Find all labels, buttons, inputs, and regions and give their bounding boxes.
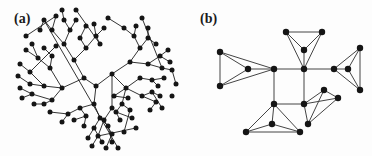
tree-edge <box>50 112 68 114</box>
tree-edge <box>126 78 140 88</box>
tree-node <box>28 70 33 75</box>
cluster-edge <box>304 32 322 50</box>
tree-edge <box>32 94 52 100</box>
tree-node <box>16 74 21 79</box>
tree-node <box>126 96 131 101</box>
tree-node <box>48 66 53 71</box>
cluster-node <box>321 87 327 93</box>
tree-node <box>60 8 65 13</box>
tree-edge <box>124 110 130 132</box>
tree-node <box>50 98 55 103</box>
tree-node <box>78 36 83 41</box>
tree-node <box>114 110 119 115</box>
tree-node <box>24 34 29 39</box>
tree-node <box>170 68 175 73</box>
tree-node <box>120 102 125 107</box>
tree-node <box>168 60 173 65</box>
cluster-edge <box>286 32 304 50</box>
tree-node <box>118 118 123 123</box>
cluster-edge <box>348 48 360 69</box>
cluster-node <box>319 29 325 35</box>
cluster-node <box>283 29 289 35</box>
tree-node <box>134 24 139 29</box>
tree-node <box>92 22 97 27</box>
tree-node <box>84 24 89 29</box>
tree-node <box>36 56 41 61</box>
tree-node <box>30 92 35 97</box>
tree-node <box>110 72 115 77</box>
tree-node <box>32 102 37 107</box>
tree-node <box>96 134 101 139</box>
tree-node <box>84 46 89 51</box>
cluster-node <box>345 66 351 72</box>
tree-node <box>148 108 153 113</box>
tree-node <box>50 28 55 33</box>
tree-node <box>90 144 95 149</box>
tree-node <box>42 18 47 23</box>
cluster-node <box>301 66 307 72</box>
cluster-node <box>335 95 341 101</box>
tree-node <box>68 28 73 33</box>
tree-node <box>66 112 71 117</box>
cluster-nodes <box>217 29 363 135</box>
tree-node <box>74 18 79 23</box>
tree-node <box>60 120 65 125</box>
figure-container: (a) (b) <box>0 0 372 156</box>
tree-edge <box>94 86 96 104</box>
tree-node <box>112 94 117 99</box>
tree-node <box>100 140 105 145</box>
tree-node <box>18 86 23 91</box>
cluster-node <box>217 49 223 55</box>
tree-node <box>48 110 53 115</box>
tree-node <box>62 18 67 23</box>
cluster-node <box>217 83 223 89</box>
cluster-node <box>269 121 275 127</box>
tree-node <box>158 94 163 99</box>
cluster-edge <box>308 98 338 124</box>
tree-node <box>30 42 35 47</box>
tree-node <box>54 14 59 19</box>
tree-node <box>72 58 77 63</box>
tree-node <box>138 76 143 81</box>
cluster-edge <box>334 69 360 90</box>
panel-a: (a) <box>0 0 190 156</box>
tree-node <box>42 46 47 51</box>
cluster-node <box>243 129 249 135</box>
tree-node <box>174 82 179 87</box>
cluster-node <box>245 66 251 72</box>
tree-node <box>102 118 107 123</box>
cluster-node <box>271 66 277 72</box>
tree-node <box>122 26 127 31</box>
tree-edge <box>130 48 140 62</box>
panel-b-modular-graph <box>190 0 372 156</box>
tree-node <box>72 118 77 123</box>
tree-node <box>42 102 47 107</box>
tree-node <box>160 66 165 71</box>
tree-node <box>130 116 135 121</box>
cluster-node <box>305 121 311 127</box>
tree-node <box>84 114 89 119</box>
tree-edge <box>74 48 86 60</box>
tree-node <box>150 90 155 95</box>
tree-edge <box>126 88 142 96</box>
tree-node <box>82 124 87 129</box>
tree-node <box>24 48 29 53</box>
tree-node <box>154 100 159 105</box>
tree-node <box>106 16 111 21</box>
tree-node <box>62 42 67 47</box>
cluster-node <box>301 101 307 107</box>
tree-node <box>140 16 145 21</box>
cluster-edge <box>220 69 248 86</box>
tree-node <box>150 78 155 83</box>
tree-node <box>146 26 151 31</box>
panel-a-radial-tree-graph <box>0 0 190 156</box>
tree-node <box>20 96 25 101</box>
tree-node <box>74 8 79 13</box>
tree-node <box>110 106 115 111</box>
tree-node <box>128 108 133 113</box>
tree-node <box>132 34 137 39</box>
tree-node <box>50 54 55 59</box>
tree-node <box>82 76 87 81</box>
tree-node <box>170 94 175 99</box>
tree-node <box>92 126 97 131</box>
